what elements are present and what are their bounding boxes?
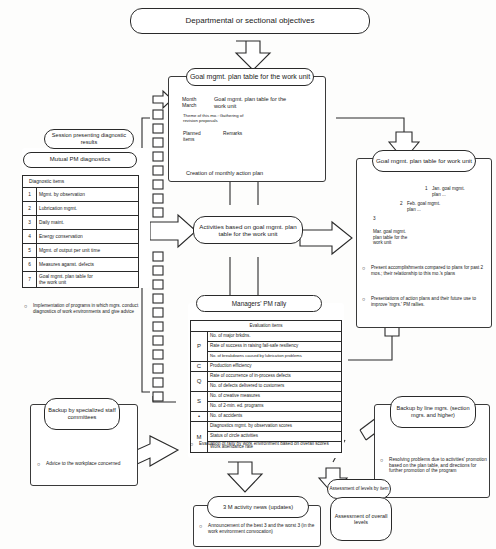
evaluation-items-title-row: Evaluation items (191, 321, 342, 332)
table-row: Q Rate of occurrence of in-process defec… (191, 372, 342, 382)
table-row: 6 Measures aganst. defects (23, 258, 139, 272)
backup-line-header: Backup by line mgrs. (section mgrs. and … (390, 396, 476, 428)
assessment-overall-capsule: Assessment of overall levels (330, 497, 392, 541)
sheet-3-no: 3 (373, 216, 376, 222)
row-no: 4 (23, 230, 37, 244)
sheet-1-no: 1 (425, 186, 428, 192)
plan-table-panel (168, 76, 326, 182)
table-row: 2 Lubrication mgmt. (23, 202, 139, 216)
table-row: 3 Daily maint. (23, 216, 139, 230)
table-row: C Production efficiency (191, 362, 342, 372)
top-banner-label: Departmental or sectional objectives (186, 16, 315, 25)
arrow-column-to-activities (150, 215, 196, 247)
table-row: S No. of creative measures (191, 392, 342, 402)
elbow-plan-to-right (336, 118, 404, 132)
diagnostics-header-session-label: Session presenting diagnostic results (45, 132, 133, 145)
row-item: Energy conservation (37, 230, 139, 244)
plan-sheet-theme: Theme of this mo.: Gathering of revision… (183, 113, 269, 123)
rally-header-label: Managers' PM rally (232, 300, 287, 308)
backup-staff-header: Backup by specialized staff committees (44, 398, 120, 430)
assessment-overall-label: Assessment of overall levels (331, 513, 391, 526)
row-no: 1 (23, 188, 37, 202)
goal-table-right-header: Goal mgmt. plan table for work unit (372, 150, 476, 172)
activities-capsule-label: Activities based on goal mgmt. plan tabl… (194, 223, 302, 238)
diagnostic-items-table: Diagnostic items 1 Mgmt. by observation … (22, 175, 139, 288)
row-group: • (191, 412, 208, 422)
goal-table-right-note-1: Present accomplishments compared to plan… (362, 265, 488, 276)
plan-sheet-month: Month March (182, 96, 212, 108)
rally-header: Managers' PM rally (196, 295, 322, 312)
plan-table-panel-header: Goal mgmt. plan table for the work unit (186, 68, 314, 86)
row-item: Rate of occurrence of in-process defects (208, 372, 342, 382)
row-item: Production efficiency (208, 362, 342, 372)
plan-table-panel-header-label: Goal mgmt. plan table for the work unit (190, 73, 310, 81)
backup-staff-note: Advice to the workplace concerned (37, 461, 133, 467)
plan-sheet-title: Goal mgmt. plan table for the work unit (214, 96, 312, 109)
evaluation-items-title: Evaluation items (191, 321, 342, 332)
arrow-into-right-panel (300, 222, 352, 254)
row-item: Rate of success in raising fail-safe res… (208, 342, 342, 352)
row-item: No. of 2-min. ed. programs (208, 402, 342, 412)
news-header: 3 M activity news (updates) (207, 496, 309, 518)
diagnostic-items-title-row: Diagnostic items (23, 176, 139, 188)
row-item: No. of major brkdns. (208, 332, 342, 342)
activities-capsule: Activities based on goal mgmt. plan tabl… (193, 216, 303, 244)
sheet-3-label: Mar. goal mgmt. plan table for the work … (373, 229, 431, 246)
sheet-2-no: 2 (400, 201, 403, 207)
row-group: C (191, 362, 208, 372)
row-item: No. of defects delivered to customers (208, 382, 342, 392)
table-row: 1 Mgmt. by observation (23, 188, 139, 202)
sheet-1-label: Jan. goal mgmt. plan ... (432, 186, 488, 197)
row-item: Daily maint. (37, 216, 139, 230)
news-note: Announcement of the best 3 and the worst… (199, 523, 321, 534)
table-row: • No. of accidents (191, 412, 342, 422)
assessment-by-item-label: Assessment of levels by item (329, 486, 388, 491)
table-row: P No. of major brkdns. (191, 332, 342, 342)
table-row: 4 Energy conservation (23, 230, 139, 244)
row-no: 6 (23, 258, 37, 272)
top-banner-objectives: Departmental or sectional objectives (130, 8, 370, 34)
evaluation-items-table: Evaluation items P No. of major brkdns. … (190, 320, 342, 453)
diagnostics-note: Implementation of programs in which mgrs… (24, 303, 148, 314)
backup-line-header-label: Backup by line mgrs. (section mgrs. and … (391, 405, 475, 418)
row-group: P (191, 332, 208, 362)
plan-panel-caption: Creation of monthly action plan (186, 170, 326, 177)
arrow-banner-to-plan (236, 41, 270, 70)
table-row: No. of 2-min. ed. programs (191, 402, 342, 412)
line-rally-up-right (348, 336, 392, 360)
table-row: M Diagnostics mgmt. by observation score… (191, 422, 342, 432)
table-row: Status of circle activities (191, 432, 342, 442)
goal-table-right-note-2: Presentations of action plans and their … (362, 296, 488, 307)
row-group: S (191, 392, 208, 412)
row-item: Status of circle activities (208, 432, 342, 442)
diagnostics-header-session: Session presenting diagnostic results (44, 129, 134, 149)
row-item: Diagnostics mgmt. by observation scores (208, 422, 342, 432)
row-item: No. of breakdowns caused by lubrication … (208, 352, 342, 362)
plan-sheet-col-planned: Planned items (183, 131, 221, 143)
rally-note: Evaluation of rally by work environment … (190, 441, 346, 447)
diagnostic-items-title: Diagnostic items (23, 176, 139, 188)
evaluation-items-body: Evaluation items P No. of major brkdns. … (191, 321, 342, 453)
goal-table-right-header-label: Goal mgmt. plan table for work unit (376, 157, 472, 164)
table-row: 7 Goal mgmt. plan table for the work uni… (23, 272, 139, 288)
row-item: Mgmt. by observation (37, 188, 139, 202)
row-item: Mgmt. of output per unit time (37, 244, 139, 258)
row-item: Lubrication mgmt. (37, 202, 139, 216)
row-item: No. of creative measures (208, 392, 342, 402)
backup-staff-header-label: Backup by specialized staff committees (45, 407, 119, 420)
row-no: 5 (23, 244, 37, 258)
row-no: 7 (23, 272, 37, 288)
table-row: No. of breakdowns caused by lubrication … (191, 352, 342, 362)
row-no: 3 (23, 216, 37, 230)
diagnostic-items-body: Diagnostic items 1 Mgmt. by observation … (23, 176, 139, 288)
diagram-canvas: Departmental or sectional objectives Goa… (0, 0, 496, 549)
diagnostics-header-mutual-label: Mutual PM diagnostics (50, 156, 110, 163)
row-group: Q (191, 372, 208, 392)
table-row: 5 Mgmt. of output per unit time (23, 244, 139, 258)
sheet-2-label: Feb. goal mgmt. plan ... (407, 201, 463, 212)
row-item: No. of accidents (208, 412, 342, 422)
backup-line-note: Resolving problems due to activities' pr… (380, 457, 490, 474)
row-no: 2 (23, 202, 37, 216)
row-item: Measures aganst. defects (37, 258, 139, 272)
arrow-rally-to-news (228, 462, 262, 492)
